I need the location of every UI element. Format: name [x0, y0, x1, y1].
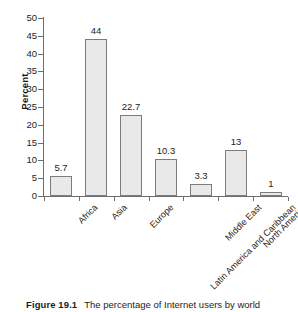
figure-container: Percent 50454035302520151050 5.74422.710…	[0, 0, 298, 312]
x-axis-category-label: Africa	[77, 203, 100, 226]
bar-value-label: 1	[247, 179, 295, 189]
bar[interactable]	[50, 176, 72, 196]
y-axis-tick	[38, 54, 43, 55]
y-axis-tick-label: 40	[1, 49, 37, 59]
x-axis-tick	[44, 197, 45, 201]
bar[interactable]	[85, 39, 107, 196]
y-axis-tick	[38, 125, 43, 126]
x-axis-tick	[183, 197, 184, 201]
y-axis-tick-label: 45	[1, 31, 37, 41]
y-axis-tick	[38, 196, 43, 197]
bar[interactable]	[155, 159, 177, 196]
bar[interactable]	[120, 115, 142, 196]
bar[interactable]	[190, 184, 212, 196]
figure-caption-text: The percentage of Internet users by worl…	[84, 299, 260, 310]
y-axis-tick-label: 50	[1, 13, 37, 23]
x-axis-tick	[288, 197, 289, 201]
bar-value-label: 22.7	[107, 102, 155, 112]
y-axis-tick-label: 25	[1, 102, 37, 112]
x-axis-tick	[149, 197, 150, 201]
y-axis-tick-labels: 50454035302520151050	[0, 0, 37, 312]
bar-value-label: 3.3	[177, 171, 225, 181]
y-axis-tick-label: 0	[1, 191, 37, 201]
y-axis-tick	[38, 71, 43, 72]
x-axis-tick	[79, 197, 80, 201]
bar[interactable]	[225, 150, 247, 196]
y-axis-tick	[38, 160, 43, 161]
bar-value-label: 5.7	[37, 163, 85, 173]
bar-value-label: 13	[212, 137, 260, 147]
y-axis-tick-label: 10	[1, 155, 37, 165]
y-axis-tick-label: 15	[1, 138, 37, 148]
x-axis-tick	[114, 197, 115, 201]
y-axis-tick-label: 35	[1, 66, 37, 76]
bar[interactable]	[260, 192, 282, 196]
x-axis-tick	[218, 197, 219, 201]
y-axis-tick-label: 5	[1, 173, 37, 183]
y-axis-tick	[38, 18, 43, 19]
y-axis-tick-label: 30	[1, 84, 37, 94]
x-axis-category-label: Asia	[110, 203, 129, 222]
y-axis-tick	[38, 107, 43, 108]
y-axis-tick-label: 20	[1, 120, 37, 130]
y-axis-tick	[38, 143, 43, 144]
y-axis-tick	[38, 36, 43, 37]
x-axis-tick	[253, 197, 254, 201]
y-axis-tick	[38, 89, 43, 90]
bar-value-label: 44	[72, 26, 120, 36]
x-axis-category-label: Europe	[149, 203, 176, 230]
bar-value-label: 10.3	[142, 146, 190, 156]
figure-caption-number: Figure 19.1	[26, 299, 77, 310]
y-axis-tick	[38, 178, 43, 179]
figure-caption: Figure 19.1The percentage of Internet us…	[26, 298, 288, 311]
